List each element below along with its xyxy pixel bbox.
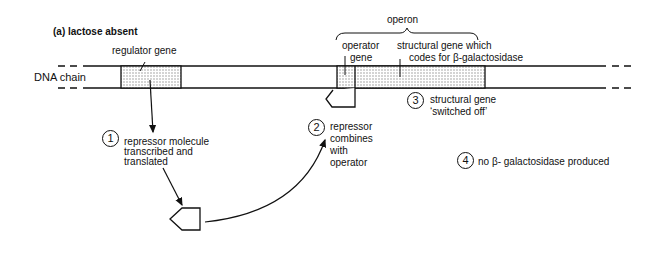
step-1-line3: translated bbox=[124, 156, 168, 168]
regulator-gene-label: regulator gene bbox=[112, 45, 177, 57]
step-2-number: 2 bbox=[308, 119, 325, 136]
step-1-number: 1 bbox=[102, 130, 119, 147]
bound-repressor-shape bbox=[326, 88, 355, 107]
step-3-line1: structural gene bbox=[430, 94, 496, 106]
step-3-line2: ‘switched off’ bbox=[430, 106, 487, 118]
step-2-line2: combines bbox=[330, 133, 373, 145]
operator-gene-label-line2: gene bbox=[350, 52, 372, 64]
step-4-line1: no β- galactosidase produced bbox=[478, 156, 609, 168]
operon-brace bbox=[336, 28, 478, 40]
step-2-line1: repressor bbox=[330, 121, 372, 133]
operator-gene-label-line1: operator bbox=[342, 40, 379, 52]
step-3-number: 3 bbox=[407, 92, 424, 109]
repressor-molecule-shape bbox=[170, 208, 200, 230]
dna-chain-label: DNA chain bbox=[34, 71, 86, 83]
operon-block bbox=[337, 66, 485, 88]
regulator-gene-block bbox=[121, 66, 181, 88]
arrow-to-repressor bbox=[163, 168, 182, 205]
step-2-line3: with bbox=[330, 145, 348, 157]
structural-gene-label-line2: codes for β-galactosidase bbox=[409, 52, 523, 64]
diagram-title: (a) lactose absent bbox=[53, 26, 137, 38]
step-4-number: 4 bbox=[457, 152, 474, 169]
operon-label: operon bbox=[387, 14, 418, 26]
step-2-line4: operator bbox=[330, 157, 367, 169]
arrow-to-step2 bbox=[205, 140, 325, 222]
structural-gene-label-line1: structural gene which bbox=[397, 40, 492, 52]
